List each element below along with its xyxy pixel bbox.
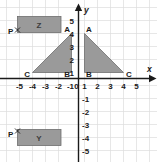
region-y-label: Y [36, 134, 42, 143]
vertex-label-b-left: B [64, 70, 70, 79]
x-tick-label: -5 [16, 82, 24, 91]
x-tick-label: -3 [42, 82, 50, 91]
y-tick-label: 4 [70, 30, 75, 39]
coordinate-plane-figure: Z Y x y -5 -4 -3 [0, 0, 157, 162]
region-z-label: Z [37, 21, 42, 30]
y-tick-label: 3 [70, 43, 75, 52]
vertex-label-b-right: B [86, 70, 92, 79]
x-tick-label: -4 [29, 82, 37, 91]
y-tick-label: 5 [70, 17, 75, 26]
point-p-lower-label: P [8, 130, 14, 139]
vertex-label-a-left: A [64, 25, 70, 34]
vertex-label-a-right: A [86, 25, 92, 34]
x-tick-label: 5 [134, 82, 139, 91]
point-p-upper-label: P [8, 27, 14, 36]
y-tick-label: 2 [70, 56, 75, 65]
y-tick-label: -1 [82, 95, 90, 104]
x-tick-label: 3 [108, 82, 113, 91]
y-tick-label: -3 [82, 121, 90, 130]
x-tick-label: 1 [82, 82, 87, 91]
region-y: Y [18, 130, 62, 146]
vertex-label-c-left: C [24, 70, 30, 79]
x-tick-label: 2 [95, 82, 100, 91]
y-tick-label: 1 [70, 69, 75, 78]
y-tick-label: -2 [82, 108, 90, 117]
coordinate-plane-svg: Z Y x y -5 -4 -3 [0, 0, 157, 162]
y-tick-label: -5 [82, 147, 90, 156]
x-tick-label: 4 [121, 82, 126, 91]
region-z: Z [18, 17, 62, 33]
y-tick-label: -4 [82, 134, 90, 143]
vertex-label-c-right: C [126, 70, 132, 79]
origin-label: 0 [74, 82, 79, 91]
x-tick-label: -2 [55, 82, 63, 91]
